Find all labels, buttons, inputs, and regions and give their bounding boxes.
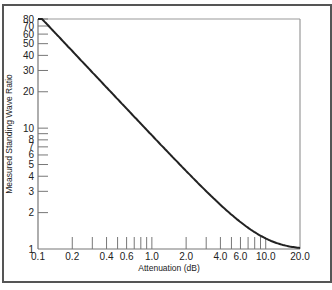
y-axis-title: Measured Standing Wave Ratio [4, 74, 14, 194]
plot-area [38, 19, 300, 249]
y-tick-label: 8 [28, 134, 34, 145]
x-tick-label: 4.0 [213, 251, 227, 262]
y-tick-label: 40 [23, 50, 35, 61]
y-tick-label: 2 [28, 207, 34, 218]
y-tick-label: 30 [23, 65, 35, 76]
x-tick-label: 6.0 [234, 251, 248, 262]
x-tick-label: 10.0 [256, 251, 276, 262]
y-tick-label: 80 [23, 14, 35, 25]
x-tick-label: 0.6 [120, 251, 134, 262]
x-tick-label: 1.0 [145, 251, 159, 262]
y-tick-label: 20 [23, 86, 35, 97]
x-tick-label: 2.0 [179, 251, 193, 262]
x-tick-label: 0.1 [31, 251, 45, 262]
y-tick-label: 4 [28, 171, 34, 182]
x-tick-label: 20.0 [290, 251, 310, 262]
x-axis-title: Attenuation (dB) [138, 263, 200, 273]
x-tick-label: 0.4 [100, 251, 114, 262]
y-tick-label: 3 [28, 186, 34, 197]
swr-curve [38, 19, 300, 248]
y-tick-label: 5 [28, 159, 34, 170]
y-axis: 123456781020304050607080 [23, 14, 48, 255]
x-tick-label: 0.2 [65, 251, 79, 262]
y-tick-label: 50 [23, 38, 35, 49]
y-tick-label: 10 [23, 123, 35, 134]
